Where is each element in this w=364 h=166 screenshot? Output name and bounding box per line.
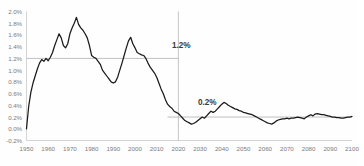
y-axis-tick-00: 0.0%: [2, 125, 22, 132]
y-axis-tick-20: 2.0%: [2, 8, 22, 15]
y-axis-tick-12: 1.2%: [2, 55, 22, 62]
y-axis-tick-08: 0.8%: [2, 78, 22, 85]
reference-lines-group: [27, 58, 353, 117]
axis-lines-group: [27, 12, 353, 141]
growth-rate-line: [27, 17, 353, 128]
y-axis-tick-18: 1.8%: [2, 20, 22, 27]
y-axis-tick-02: 0.2%: [2, 114, 22, 121]
y-axis-tick-10: 1.0%: [2, 67, 22, 74]
y-axis-tick-06: 0.6%: [2, 90, 22, 97]
y-axis-tick-14: 1.4%: [2, 43, 22, 50]
y-axis-tick-16: 1.6%: [2, 31, 22, 38]
annotation-0-2-percent: 0.2%: [198, 98, 217, 107]
x-axis-tick-2100: 2100: [339, 145, 364, 152]
y-axis-tick-neg02: -0.2%: [2, 137, 22, 144]
annotation-1-2-percent: 1.2%: [172, 41, 191, 50]
y-axis-tick-04: 0.4%: [2, 102, 22, 109]
